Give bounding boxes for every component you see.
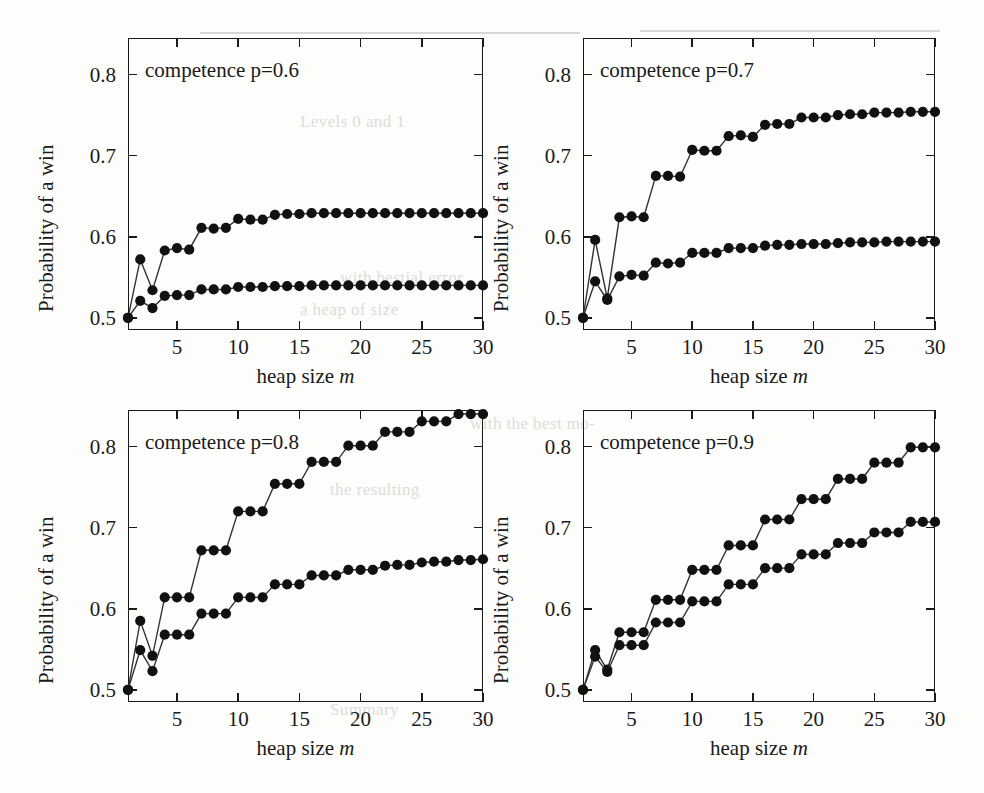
- data-point: [893, 458, 903, 468]
- data-point: [845, 474, 855, 484]
- data-point: [772, 514, 782, 524]
- data-point: [893, 527, 903, 537]
- data-point: [687, 596, 697, 606]
- data-point: [760, 563, 770, 573]
- data-point: [736, 540, 746, 550]
- data-point: [651, 595, 661, 605]
- data-point: [809, 494, 819, 504]
- data-point: [918, 517, 928, 527]
- data-point: [857, 474, 867, 484]
- y-axis-title: Probability of a win: [489, 517, 514, 684]
- data-point: [906, 517, 916, 527]
- data-point: [857, 538, 867, 548]
- data-point: [821, 494, 831, 504]
- data-point: [724, 579, 734, 589]
- panel-annotation-competence: competence p=0.9: [600, 430, 754, 455]
- data-point: [881, 527, 891, 537]
- data-point: [784, 514, 794, 524]
- data-point: [930, 517, 940, 527]
- data-point: [578, 685, 588, 695]
- data-point: [602, 667, 612, 677]
- data-point: [590, 651, 600, 661]
- figure-four-panel-probability-of-win: 0.50.60.70.851015202530competence p=0.6h…: [0, 0, 984, 793]
- data-point: [687, 565, 697, 575]
- data-point: [675, 617, 685, 627]
- data-point: [881, 458, 891, 468]
- data-point: [614, 640, 624, 650]
- data-point: [626, 627, 636, 637]
- data-point: [869, 527, 879, 537]
- data-point: [796, 549, 806, 559]
- data-point: [748, 540, 758, 550]
- data-point: [724, 540, 734, 550]
- data-point: [639, 627, 649, 637]
- data-point: [760, 514, 770, 524]
- data-point: [784, 563, 794, 573]
- data-point: [711, 565, 721, 575]
- chart-panel-p09: 0.50.60.70.851015202530competence p=0.9h…: [0, 0, 984, 793]
- data-point: [699, 565, 709, 575]
- data-point: [748, 579, 758, 589]
- data-point: [918, 442, 928, 452]
- data-point: [821, 549, 831, 559]
- data-point: [675, 595, 685, 605]
- x-axis-title-variable: m: [793, 736, 808, 760]
- data-point: [772, 563, 782, 573]
- data-point: [906, 442, 916, 452]
- series-line-lower: [583, 522, 935, 690]
- data-point: [809, 549, 819, 559]
- x-axis-title: heap size m: [710, 736, 808, 761]
- series-line-upper: [583, 447, 935, 690]
- x-axis-title-text: heap size: [710, 736, 793, 760]
- data-point: [614, 627, 624, 637]
- data-point: [869, 458, 879, 468]
- data-point: [626, 640, 636, 650]
- data-point: [796, 494, 806, 504]
- data-point: [930, 442, 940, 452]
- data-point: [736, 579, 746, 589]
- data-point: [833, 538, 843, 548]
- data-point: [845, 538, 855, 548]
- data-point: [699, 596, 709, 606]
- data-point: [663, 595, 673, 605]
- data-point: [711, 596, 721, 606]
- data-point: [651, 617, 661, 627]
- data-point: [639, 640, 649, 650]
- data-point: [833, 474, 843, 484]
- data-point: [663, 617, 673, 627]
